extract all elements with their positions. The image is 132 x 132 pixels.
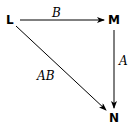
node-m: M: [108, 14, 120, 26]
node-n: N: [109, 112, 119, 124]
edge-label-ab: AB: [37, 70, 54, 82]
edge-label-b: B: [52, 7, 61, 19]
commutative-diagram: L M N B A AB: [0, 0, 132, 132]
node-l: L: [6, 14, 14, 26]
edge-label-a: A: [119, 55, 128, 67]
arrow-l-to-n: [16, 26, 106, 110]
